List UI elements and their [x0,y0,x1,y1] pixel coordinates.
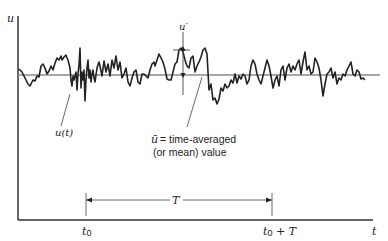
interval-arrow-left [86,198,92,203]
mean-label-line1: = time-averaged [160,133,236,145]
t0-label: t0 [82,225,91,238]
mean-callout-leader [187,77,202,127]
velocity-signal [19,48,365,104]
mean-label-line2: (or mean) value [153,146,227,158]
signal-callout-leader [61,94,70,126]
signal-label: u(t) [55,127,73,138]
t0-plus-T-label: t0 + T [263,225,298,238]
interval-label: T [172,194,181,207]
x-axis-label: t [372,225,377,238]
y-axis-label: u [7,12,14,25]
turbulent-velocity-diagram: u t u′ u(t) ū = time-averaged (or mean) … [0,0,388,241]
fluctuation-label: u′ [179,21,188,32]
interval-arrow-right [266,198,272,203]
mean-symbol: ū [151,133,158,146]
